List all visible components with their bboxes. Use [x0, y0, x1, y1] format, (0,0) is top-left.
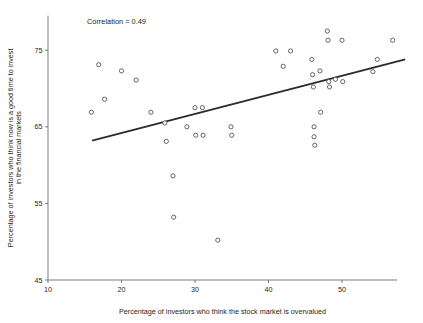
data-point: [288, 49, 292, 53]
data-point: [102, 97, 106, 101]
data-point: [200, 106, 204, 110]
data-point: [371, 70, 375, 74]
x-axis-title: Percentage of investors who think the st…: [119, 307, 326, 316]
data-point: [163, 121, 167, 125]
data-point: [341, 80, 345, 84]
scatter-chart: 102030405045556575Percentage of investor…: [0, 0, 423, 323]
data-point: [327, 80, 331, 84]
regression-line: [92, 59, 405, 140]
chart-canvas: 102030405045556575Percentage of investor…: [0, 0, 423, 323]
data-point: [149, 110, 153, 114]
data-point: [311, 85, 315, 89]
data-point: [281, 64, 285, 68]
data-point: [333, 77, 337, 81]
data-point: [313, 143, 317, 147]
data-point: [391, 38, 395, 42]
data-point: [312, 125, 316, 129]
data-point: [216, 238, 220, 242]
data-point: [201, 133, 205, 137]
x-tick-label: 50: [338, 285, 346, 294]
x-tick-label: 30: [191, 285, 199, 294]
y-tick-label: 65: [35, 122, 43, 131]
data-point: [326, 38, 330, 42]
data-point: [194, 133, 198, 137]
data-point: [171, 174, 175, 178]
data-point: [193, 106, 197, 110]
data-point: [310, 57, 314, 61]
data-point: [89, 110, 93, 114]
data-point: [319, 110, 323, 114]
y-axis-title-line2: in the financial markets: [15, 111, 24, 185]
data-point: [340, 38, 344, 42]
data-point: [274, 49, 278, 53]
x-tick-label: 10: [44, 285, 52, 294]
data-point: [375, 57, 379, 61]
data-point: [312, 135, 316, 139]
data-point: [172, 215, 176, 219]
data-point: [134, 78, 138, 82]
data-point: [97, 63, 101, 67]
data-point: [311, 73, 315, 77]
data-point: [327, 85, 331, 89]
data-point: [230, 133, 234, 137]
data-point: [185, 125, 189, 129]
x-tick-label: 20: [118, 285, 126, 294]
data-point: [318, 69, 322, 73]
data-point: [325, 29, 329, 33]
data-point: [164, 139, 168, 143]
y-tick-label: 75: [35, 46, 43, 55]
data-point: [119, 69, 123, 73]
correlation-annotation: Correlation = 0.49: [87, 17, 146, 26]
x-tick-label: 40: [265, 285, 273, 294]
y-tick-label: 45: [35, 276, 43, 285]
data-point: [229, 125, 233, 129]
y-tick-label: 55: [35, 199, 43, 208]
